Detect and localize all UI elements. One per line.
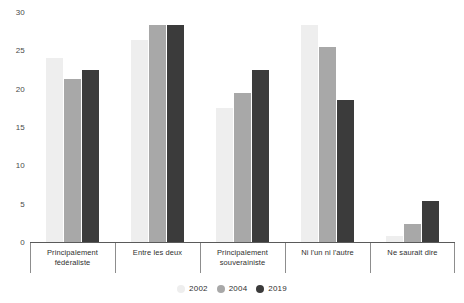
bar-group	[131, 12, 184, 242]
bar-chart: 051015202530 Principalement fédéralisteE…	[0, 0, 464, 303]
legend-label: 2002	[189, 284, 208, 293]
category-label: Entre les deux	[115, 248, 200, 258]
legend-label: 2019	[268, 284, 287, 293]
bar-2019-2[interactable]	[252, 70, 269, 242]
category-label: Ni l'un ni l'autre	[285, 248, 370, 258]
bar-2019-1[interactable]	[167, 25, 184, 242]
y-axis-tick-label: 25	[16, 46, 25, 55]
y-axis-tick-label: 15	[16, 123, 25, 132]
bar-2004-0[interactable]	[64, 79, 81, 242]
y-axis-tick-label: 5	[20, 199, 25, 208]
bar-group	[386, 12, 439, 242]
x-axis-categories: Principalement fédéralisteEntre les deux…	[30, 243, 455, 277]
bar-2002-1[interactable]	[131, 40, 148, 242]
bar-group	[216, 12, 269, 242]
legend-item[interactable]: 2019	[256, 284, 287, 293]
bar-2019-3[interactable]	[337, 100, 354, 242]
legend-label: 2004	[229, 284, 248, 293]
legend-swatch-icon	[177, 285, 185, 293]
y-axis-tick-label: 0	[20, 238, 25, 247]
bar-2004-1[interactable]	[149, 25, 166, 242]
legend-item[interactable]: 2004	[217, 284, 248, 293]
bar-group	[46, 12, 99, 242]
bars-layer	[30, 12, 455, 242]
bar-2019-4[interactable]	[422, 201, 439, 242]
category-label: Ne saurait dire	[370, 248, 455, 258]
bar-group	[301, 12, 354, 242]
bar-2004-4[interactable]	[404, 224, 421, 242]
bar-2002-2[interactable]	[216, 108, 233, 242]
plot-area: 051015202530	[30, 12, 455, 242]
bar-2004-3[interactable]	[319, 47, 336, 242]
y-axis-tick-label: 30	[16, 8, 25, 17]
bar-2019-0[interactable]	[82, 70, 99, 242]
category-label: Principalement fédéraliste	[30, 248, 115, 268]
bar-2002-0[interactable]	[46, 58, 63, 242]
bar-2002-3[interactable]	[301, 25, 318, 242]
category-label: Principalement souverainiste	[200, 248, 285, 268]
legend-swatch-icon	[256, 285, 264, 293]
legend-swatch-icon	[217, 285, 225, 293]
bar-2004-2[interactable]	[234, 93, 251, 243]
y-axis-tick-label: 10	[16, 161, 25, 170]
y-axis-tick-label: 20	[16, 84, 25, 93]
chart-legend: 200220042019	[0, 284, 464, 293]
legend-item[interactable]: 2002	[177, 284, 208, 293]
